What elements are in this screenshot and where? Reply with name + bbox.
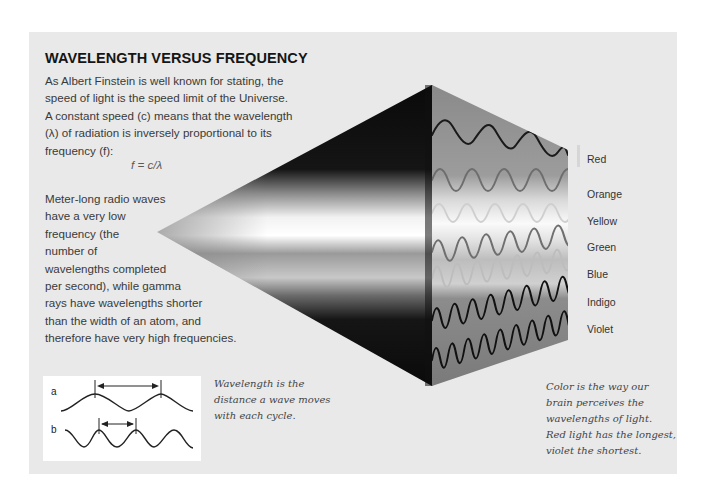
label-red: Red: [587, 153, 606, 165]
wave-diagram-svg: [43, 376, 201, 461]
label-yellow: Yellow: [587, 215, 617, 227]
label-green: Green: [587, 241, 616, 253]
spectrum-face: [432, 85, 568, 386]
label-orange: Orange: [587, 188, 622, 200]
label-blue: Blue: [587, 268, 608, 280]
label-violet: Violet: [587, 323, 613, 335]
label-indigo: Indigo: [587, 296, 616, 308]
wavelength-caption: Wavelength is the distance a wave moves …: [214, 376, 330, 424]
wavelength-diagram: a b: [43, 376, 201, 461]
color-caption: Color is the way our brain perceives the…: [546, 379, 676, 459]
